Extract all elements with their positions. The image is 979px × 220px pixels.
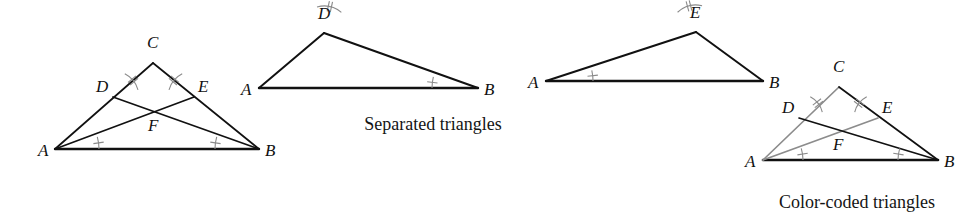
angle-tick	[797, 153, 807, 155]
panels-layer: ABCDEFABDABEABCDEF	[37, 0, 955, 171]
separated-triangle-abe: ABE	[527, 0, 780, 92]
color-coded-triangle-label-F: F	[832, 135, 844, 154]
separated-triangle-abd-label-A: A	[240, 80, 252, 99]
combined-triangle-label-E: E	[197, 77, 209, 96]
separated-triangle-abe-side-EB	[696, 32, 763, 81]
separated-triangle-abd: ABD	[240, 1, 495, 99]
geometry-figure-page: ABCDEFABDABEABCDEF Separated trianglesCo…	[0, 0, 979, 220]
separated-triangle-abe-angle-mark-A	[588, 70, 598, 81]
caption-separated: Separated triangles	[364, 114, 501, 134]
separated-triangle-abd-angle-mark-B	[427, 77, 437, 88]
color-coded-triangle-label-C: C	[833, 57, 845, 76]
separated-triangle-abe-label-A: A	[527, 73, 539, 92]
angle-tick	[893, 153, 903, 155]
angle-tick	[588, 75, 598, 76]
combined-triangle-label-C: C	[147, 33, 159, 52]
figure-canvas: ABCDEFABDABEABCDEF Separated trianglesCo…	[0, 0, 979, 220]
separated-triangle-abd-side-DB	[324, 33, 478, 88]
separated-triangle-abd-label-D: D	[317, 4, 331, 23]
separated-triangle-abe-label-B: B	[769, 73, 780, 92]
separated-triangle-abd-side-AD	[259, 33, 324, 88]
combined-triangle-label-A: A	[37, 141, 49, 160]
combined-triangle-angle-mark-B	[210, 137, 220, 149]
color-coded-triangle-angle-mark-B	[893, 148, 903, 160]
angle-tick	[427, 82, 437, 83]
combined-triangle-label-F: F	[147, 116, 159, 135]
combined-triangle-label-D: D	[95, 77, 109, 96]
color-coded-triangle-label-E: E	[881, 98, 893, 117]
separated-triangle-abd-label-B: B	[484, 80, 495, 99]
combined-triangle-label-B: B	[265, 141, 276, 160]
color-coded-triangle-angle-mark-A	[797, 148, 807, 160]
separated-triangle-abe-side-AE	[546, 32, 696, 81]
angle-tick	[210, 142, 220, 143]
color-coded-triangle-label-B: B	[944, 152, 955, 171]
color-coded-triangle-label-A: A	[744, 152, 756, 171]
color-coded-triangle-label-D: D	[781, 98, 795, 117]
color-coded-triangle-angle-mark-E	[854, 97, 867, 112]
caption-color-coded: Color-coded triangles	[779, 192, 935, 212]
angle-tick	[93, 142, 103, 143]
combined-triangle-cevian-AE	[55, 97, 194, 149]
separated-triangle-abe-label-E: E	[689, 3, 701, 22]
combined-triangle-angle-mark-A	[93, 137, 103, 149]
combined-triangle-cevian-DB	[113, 97, 259, 149]
